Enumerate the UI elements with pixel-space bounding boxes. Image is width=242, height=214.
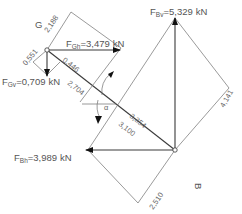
label-g: G <box>35 19 42 30</box>
dim-2704: 2,704 <box>66 78 86 97</box>
label-f-bh: FBh=3,989kN <box>14 152 72 164</box>
node-g <box>45 48 49 52</box>
node-b <box>173 148 177 152</box>
label-alpha: α <box>104 103 109 112</box>
label-f-bv: FBv=5,329kN <box>150 6 207 18</box>
angle-arrow-icon <box>95 116 102 124</box>
dim-2188: 2,188 <box>42 14 60 35</box>
force-diagram: G B FGh=3,479kN FGv=0,709kN FBv=5,329kN … <box>0 0 242 214</box>
dim-0551: 0,551 <box>21 47 40 67</box>
angle-arc <box>102 74 110 95</box>
angle-arrow-icon <box>108 71 114 78</box>
dim-4141: 4,141 <box>218 88 235 109</box>
dim-0446: 0,446 <box>61 55 81 74</box>
label-f-gv: FGv=0,709kN <box>2 76 60 88</box>
label-f-gh: FGh=3,479kN <box>66 38 125 50</box>
label-b: B <box>193 183 204 189</box>
dim-2510: 2,510 <box>147 191 165 212</box>
